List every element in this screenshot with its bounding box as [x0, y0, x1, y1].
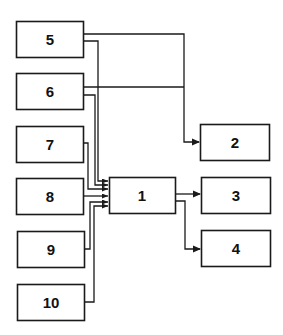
block-4-label: 4	[232, 240, 241, 257]
block-7: 7	[17, 127, 84, 163]
block-5: 5	[17, 22, 84, 58]
block-10-label: 10	[43, 294, 60, 311]
block-7-label: 7	[46, 136, 54, 153]
block-3-label: 3	[232, 187, 240, 204]
connector-9-to-1	[84, 202, 108, 249]
connector-6-to-1	[83, 95, 108, 185]
block-8-label: 8	[46, 188, 54, 205]
block-8: 8	[17, 179, 84, 215]
block-9-label: 9	[47, 241, 55, 258]
block-1: 1	[110, 178, 176, 214]
block-1-label: 1	[138, 187, 146, 204]
block-diagram: 5 6 7 8 9 10 1 2 3 4	[0, 0, 283, 335]
block-2-label: 2	[231, 134, 239, 151]
connector-10-to-1	[84, 206, 108, 302]
block-9: 9	[18, 232, 85, 268]
block-5-label: 5	[46, 31, 54, 48]
block-4: 4	[202, 231, 271, 267]
connector-1-to-4	[176, 201, 200, 249]
block-3: 3	[202, 178, 271, 214]
block-6-label: 6	[46, 83, 54, 100]
block-2: 2	[201, 125, 270, 161]
connector-5-to-2	[83, 34, 199, 142]
block-6: 6	[17, 74, 84, 110]
block-10: 10	[18, 285, 85, 321]
